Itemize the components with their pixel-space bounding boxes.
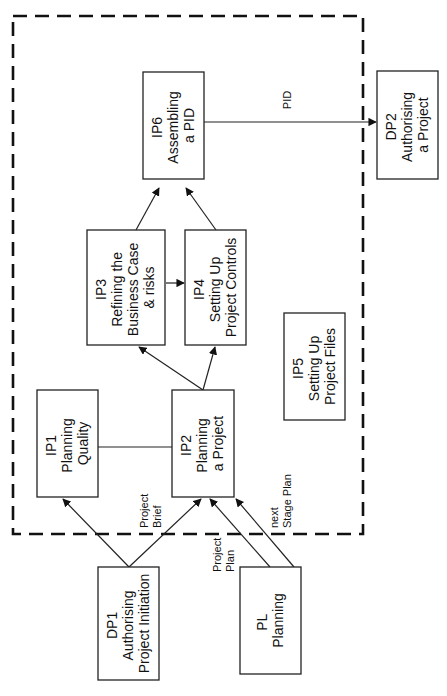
node-ip5-code: IP5 bbox=[290, 358, 306, 379]
node-dp2-line3: a Project bbox=[415, 97, 431, 152]
node-ip3-line4: & risks bbox=[141, 267, 157, 309]
node-ip5-line2: Setting Up bbox=[306, 336, 322, 402]
node-ip6[interactable]: IP6 Assembling a PID bbox=[143, 72, 204, 179]
label-pid: PID bbox=[281, 91, 293, 109]
node-dp1-line3: Project Initiation bbox=[136, 574, 152, 674]
node-dp1[interactable]: DP1 Authorising Project Initiation bbox=[98, 567, 159, 680]
edge-ip4-ip6 bbox=[186, 188, 216, 230]
node-ip1-line2: Planning bbox=[59, 418, 75, 473]
node-ip3[interactable]: IP3 Refining the Business Case & risks bbox=[87, 230, 165, 345]
node-ip4-code: IP4 bbox=[191, 279, 207, 300]
node-ip3-code: IP3 bbox=[93, 279, 109, 300]
node-dp2-code: DP2 bbox=[383, 113, 399, 140]
node-ip3-line2: Refining the bbox=[109, 252, 125, 327]
node-ip1-code: IP1 bbox=[43, 435, 59, 456]
edge-ip2-ip4 bbox=[203, 347, 215, 390]
node-ip6-line2: Assembling bbox=[165, 91, 181, 163]
node-dp2[interactable]: DP2 Authorising a Project bbox=[377, 71, 438, 179]
node-ip2-line3: a Project bbox=[210, 416, 226, 471]
label-project-brief: Project Brief bbox=[138, 491, 163, 528]
process-diagram: IP6 Assembling a PID DP2 Authorising a P… bbox=[0, 0, 447, 696]
node-ip6-code: IP6 bbox=[149, 117, 165, 138]
node-ip2-code: IP2 bbox=[178, 435, 194, 456]
node-ip4-line2: Setting Up bbox=[207, 257, 223, 323]
node-pl[interactable]: PL Planning bbox=[240, 567, 301, 674]
label-project-plan: Project Plan bbox=[211, 535, 236, 572]
node-ip3-line3: Business Case bbox=[125, 243, 141, 337]
node-ip4[interactable]: IP4 Setting Up Project Controls bbox=[185, 230, 246, 345]
node-ip5-line3: Project Files bbox=[322, 328, 338, 405]
edge-ip3-ip6 bbox=[136, 188, 159, 230]
node-ip1-line3: Quality bbox=[75, 422, 91, 466]
node-dp1-code: DP1 bbox=[104, 612, 120, 639]
node-ip2[interactable]: IP2 Planning a Project bbox=[172, 390, 234, 497]
node-ip4-line3: Project Controls bbox=[223, 238, 239, 338]
node-ip2-line2: Planning bbox=[194, 418, 210, 473]
node-ip6-line3: a PID bbox=[181, 108, 197, 143]
node-dp1-line2: Authorising bbox=[120, 590, 136, 660]
edge-ip2-ip3 bbox=[139, 347, 203, 390]
node-pl-code: PL bbox=[254, 613, 270, 630]
label-next-stage-plan: next Stage Plan bbox=[268, 474, 293, 528]
node-ip1[interactable]: IP1 Planning Quality bbox=[37, 390, 98, 497]
node-pl-line2: Planning bbox=[270, 593, 286, 648]
node-ip5[interactable]: IP5 Setting Up Project Files bbox=[284, 313, 345, 420]
node-dp2-line2: Authorising bbox=[399, 92, 415, 162]
